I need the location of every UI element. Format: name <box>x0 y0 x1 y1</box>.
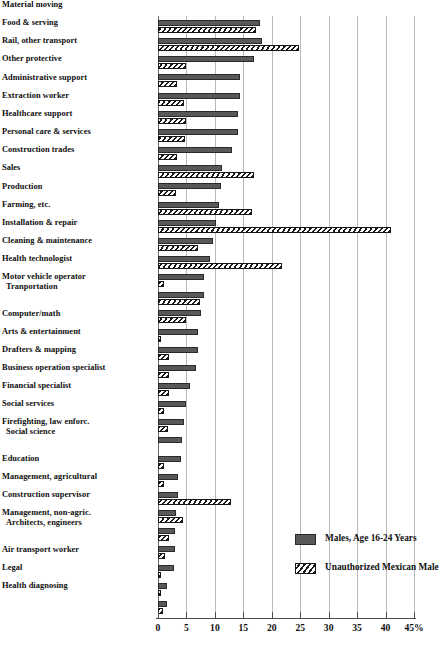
category-label: Material moving <box>2 0 148 10</box>
bar-unauthorized-mexican-male <box>158 172 254 178</box>
occupation-distribution-bar-chart: Material movingFood & servingRail, other… <box>0 0 446 654</box>
bar-row <box>158 419 414 433</box>
bar-unauthorized-mexican-male <box>158 572 161 578</box>
x-tick-35 <box>357 612 358 618</box>
category-label-line: Rail, other transport <box>2 36 77 45</box>
bar-unauthorized-mexican-male <box>158 281 164 287</box>
bar-unauthorized-mexican-male <box>158 263 282 269</box>
bar-unauthorized-mexican-male <box>158 299 200 305</box>
category-label: Farming, etc. <box>2 200 148 210</box>
bar-unauthorized-mexican-male <box>158 190 176 196</box>
bar-row <box>158 383 414 397</box>
plot-area <box>158 16 414 618</box>
bar-males-16-24 <box>158 383 190 389</box>
bar-unauthorized-mexican-male <box>158 154 177 160</box>
bar-row <box>158 456 414 470</box>
category-label-line: Business operation specialist <box>2 363 105 372</box>
category-label: Production <box>2 182 148 192</box>
bar-row <box>158 474 414 488</box>
bar-unauthorized-mexican-male <box>158 45 299 51</box>
category-label-line: Farming, etc. <box>2 200 50 209</box>
category-label-line: Healthcare support <box>2 109 72 118</box>
category-label: Legal <box>2 563 148 573</box>
category-label-line: Legal <box>2 563 22 572</box>
bar-males-16-24 <box>158 238 213 244</box>
bar-males-16-24 <box>158 437 182 443</box>
bar-unauthorized-mexican-male <box>158 481 164 487</box>
bar-row <box>158 56 414 70</box>
bar-row <box>158 274 414 288</box>
category-label-line: Construction trades <box>2 145 74 154</box>
bar-row <box>158 20 414 34</box>
x-tick-label: 35 <box>352 622 362 633</box>
bar-males-16-24 <box>158 274 204 280</box>
bar-males-16-24 <box>158 111 238 117</box>
bar-row <box>158 510 414 524</box>
category-label-line: Firefighting, law enforc. <box>2 417 89 426</box>
bar-unauthorized-mexican-male <box>158 553 165 559</box>
category-label-line: Management, non-agric. <box>2 508 91 517</box>
chart-legend: Males, Age 16-24 Years Unauthorized Mexi… <box>295 533 443 591</box>
bar-row <box>158 165 414 179</box>
x-tick-0 <box>158 612 159 618</box>
category-label: Sales <box>2 163 148 173</box>
bar-males-16-24 <box>158 74 240 80</box>
x-tick-25 <box>300 612 301 618</box>
bar-row <box>158 38 414 52</box>
category-label-line: Health technologist <box>2 254 72 263</box>
category-label: Rail, other transport <box>2 36 148 46</box>
category-label: Health technologist <box>2 254 148 264</box>
category-label-line: Education <box>2 454 39 463</box>
category-label-column: Material movingFood & servingRail, other… <box>0 0 152 616</box>
x-tick-label: 20 <box>267 622 277 633</box>
bar-unauthorized-mexican-male <box>158 535 169 541</box>
bar-males-16-24 <box>158 310 201 316</box>
bar-males-16-24 <box>158 565 174 571</box>
bar-unauthorized-mexican-male <box>158 209 252 215</box>
category-label: Arts & entertainment <box>2 327 148 337</box>
bar-unauthorized-mexican-male <box>158 426 168 432</box>
bar-males-16-24 <box>158 183 221 189</box>
bar-males-16-24 <box>158 492 178 498</box>
bar-row <box>158 601 414 615</box>
bar-unauthorized-mexican-male <box>158 372 169 378</box>
bar-row <box>158 492 414 506</box>
bar-unauthorized-mexican-male <box>158 517 183 523</box>
category-label: Education <box>2 454 148 464</box>
x-tick-label: 10 <box>210 622 220 633</box>
category-label-line: Health diagnosing <box>2 581 68 590</box>
x-tick-label: 40 <box>381 622 391 633</box>
bar-males-16-24 <box>158 347 198 353</box>
bar-row <box>158 238 414 252</box>
x-tick-label: 15 <box>239 622 249 633</box>
legend-swatch-hatched <box>295 563 316 574</box>
category-label-line: Other protective <box>2 54 62 63</box>
legend-label-unauthorized-mexican-male: Unauthorized Mexican Male <box>325 562 443 574</box>
category-label-line: Social science <box>2 427 148 437</box>
category-label-line: Management, agricultural <box>2 472 97 481</box>
bar-males-16-24 <box>158 474 178 480</box>
bar-males-16-24 <box>158 365 196 371</box>
category-label-line: Extraction worker <box>2 91 69 100</box>
bar-males-16-24 <box>158 546 175 552</box>
bar-males-16-24 <box>158 256 210 262</box>
bar-row <box>158 256 414 270</box>
category-label: Installation & repair <box>2 218 148 228</box>
category-label: Management, non-agric.Architects, engine… <box>2 508 148 527</box>
x-tick-label: 45% <box>404 622 423 633</box>
x-tick-10 <box>215 612 216 618</box>
bar-unauthorized-mexican-male <box>158 590 161 596</box>
category-label-line: Installation & repair <box>2 218 77 227</box>
bar-males-16-24 <box>158 202 219 208</box>
x-axis-line <box>156 618 416 619</box>
category-label: Personal care & services <box>2 127 148 137</box>
bar-unauthorized-mexican-male <box>158 499 231 505</box>
category-label-line: Production <box>2 182 42 191</box>
category-label-line: Financial specialist <box>2 381 71 390</box>
category-label: Health diagnosing <box>2 581 148 591</box>
bar-row <box>158 365 414 379</box>
x-tick-label: 30 <box>324 622 334 633</box>
bar-unauthorized-mexican-male <box>158 100 184 106</box>
category-label-line: Sales <box>2 163 20 172</box>
category-label: Computer/math <box>2 309 148 319</box>
